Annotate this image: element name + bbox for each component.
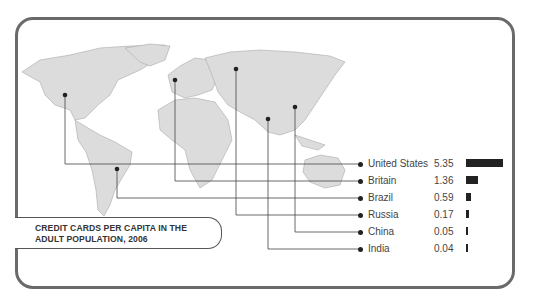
value-bar bbox=[466, 176, 478, 184]
value-label: 0.59 bbox=[434, 192, 453, 203]
value-bar bbox=[466, 227, 468, 235]
dot-us bbox=[63, 93, 68, 98]
dot-russia bbox=[234, 67, 239, 72]
bullet-icon bbox=[358, 162, 363, 167]
chart-title-box: CREDIT CARDS PER CAPITA IN THE ADULT POP… bbox=[15, 217, 222, 249]
value-bar bbox=[466, 244, 468, 252]
country-label: Brazil bbox=[368, 192, 393, 203]
bullet-icon bbox=[358, 213, 363, 218]
bullet-icon bbox=[358, 230, 363, 235]
dot-britain bbox=[173, 78, 178, 83]
south-america-shape bbox=[75, 120, 132, 216]
value-label: 0.17 bbox=[434, 209, 453, 220]
bullet-icon bbox=[358, 247, 363, 252]
value-label: 0.05 bbox=[434, 226, 453, 237]
value-label: 0.04 bbox=[434, 243, 453, 254]
leader-india bbox=[268, 119, 360, 249]
value-label: 1.36 bbox=[434, 175, 453, 186]
value-bar bbox=[466, 159, 503, 167]
dot-brazil bbox=[115, 167, 120, 172]
dot-china bbox=[293, 105, 298, 110]
value-bar bbox=[466, 210, 469, 218]
africa-shape bbox=[158, 98, 232, 188]
country-label: Britain bbox=[368, 175, 396, 186]
bullet-icon bbox=[358, 179, 363, 184]
title-line-1: CREDIT CARDS PER CAPITA IN THE bbox=[35, 223, 187, 234]
se-asia-shape bbox=[295, 135, 325, 150]
world-map bbox=[0, 0, 533, 306]
country-label: India bbox=[368, 243, 390, 254]
country-label: United States bbox=[368, 158, 428, 169]
value-label: 5.35 bbox=[434, 158, 453, 169]
dot-india bbox=[266, 117, 271, 122]
chart-title: CREDIT CARDS PER CAPITA IN THE ADULT POP… bbox=[35, 223, 187, 244]
title-line-2: ADULT POPULATION, 2006 bbox=[35, 234, 187, 245]
bullet-icon bbox=[358, 196, 363, 201]
country-label: Russia bbox=[368, 209, 399, 220]
value-bar bbox=[466, 193, 471, 201]
australia-shape bbox=[303, 155, 345, 188]
country-label: China bbox=[368, 226, 394, 237]
